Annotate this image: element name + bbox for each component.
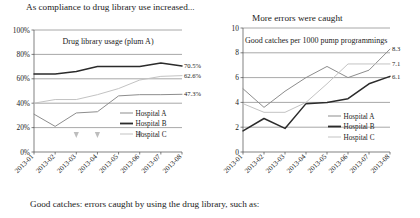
chart-subtitle: Drug library usage (plum A) bbox=[62, 37, 153, 46]
x-axis-label-2013-04: 2013-04 bbox=[285, 152, 308, 175]
x-axis-label-2013-07: 2013-07 bbox=[140, 152, 163, 175]
x-axis-label-2013-08: 2013-08 bbox=[161, 152, 184, 175]
x-axis-label-group-2013-07: 2013-07 bbox=[140, 152, 163, 175]
x-axis-label-2013-03: 2013-03 bbox=[56, 152, 79, 175]
x-axis-label-group-2013-05: 2013-05 bbox=[98, 152, 121, 175]
legend-label-hospital-a: Hospital A bbox=[344, 113, 376, 121]
y-axis-label-4: 4 bbox=[235, 98, 239, 107]
legend-label-hospital-c: Hospital C bbox=[136, 131, 167, 139]
y-axis-label-8: 8 bbox=[235, 48, 239, 57]
data-label-hospital-a: 47.3% bbox=[184, 90, 202, 97]
x-axis-label-2013-04: 2013-04 bbox=[77, 152, 100, 175]
legend-label-hospital-a: Hospital A bbox=[136, 110, 168, 118]
y-axis-label-100: 100% bbox=[13, 26, 30, 35]
x-axis-label-group-2013-01: 2013-01 bbox=[222, 152, 245, 175]
chart-subtitle: Good catches per 1000 pump programmings bbox=[245, 36, 387, 45]
down-triangle-icon-2013-03 bbox=[74, 132, 79, 138]
x-axis-label-group-2013-04: 2013-04 bbox=[77, 152, 100, 175]
x-axis-label-group-2013-03: 2013-03 bbox=[56, 152, 79, 175]
x-axis-label-2013-02: 2013-02 bbox=[34, 152, 57, 175]
left-line-chart: 0%20%40%60%80%100%2013-012013-022013-032… bbox=[0, 24, 210, 196]
x-axis-label-group-2013-05: 2013-05 bbox=[306, 152, 329, 175]
data-label-hospital-c: 7.1 bbox=[392, 60, 400, 67]
series-line-hospital-c bbox=[243, 64, 390, 112]
x-axis-label-2013-08: 2013-08 bbox=[369, 152, 392, 175]
chart-legend: Hospital AHospital BHospital C bbox=[328, 113, 375, 142]
x-axis-label-group-2013-02: 2013-02 bbox=[243, 152, 266, 175]
x-axis-label-2013-06: 2013-06 bbox=[119, 152, 142, 175]
x-axis-label-group-2013-04: 2013-04 bbox=[285, 152, 308, 175]
y-axis-label-80: 80% bbox=[16, 50, 30, 59]
series-line-hospital-b bbox=[34, 63, 182, 74]
figure-caption: Good catches: errors caught by using the… bbox=[30, 198, 410, 210]
x-axis-label-2013-03: 2013-03 bbox=[264, 152, 287, 175]
x-axis-label-2013-02: 2013-02 bbox=[243, 152, 266, 175]
y-axis-label-20: 20% bbox=[16, 123, 30, 132]
x-axis-label-group-2013-03: 2013-03 bbox=[264, 152, 287, 175]
x-axis-label-group-2013-08: 2013-08 bbox=[161, 152, 184, 175]
right-chart-panel: 02468102013-012013-022013-032013-042013-… bbox=[212, 24, 420, 196]
x-axis-label-group-2013-06: 2013-06 bbox=[119, 152, 142, 175]
x-axis-label-group-2013-02: 2013-02 bbox=[34, 152, 57, 175]
left-chart-heading: As compliance to drug library use increa… bbox=[26, 2, 206, 14]
x-axis-label-group-2013-06: 2013-06 bbox=[327, 152, 350, 175]
chart-legend: Hospital AHospital BHospital C bbox=[120, 110, 167, 139]
y-axis-label-6: 6 bbox=[235, 73, 239, 82]
x-axis-label-2013-05: 2013-05 bbox=[98, 152, 121, 175]
right-line-chart: 02468102013-012013-022013-032013-042013-… bbox=[212, 24, 420, 196]
x-axis-label-2013-05: 2013-05 bbox=[306, 152, 329, 175]
data-label-hospital-b: 70.5% bbox=[184, 62, 202, 69]
x-axis-label-group-2013-07: 2013-07 bbox=[348, 152, 371, 175]
data-label-hospital-b: 6.1 bbox=[392, 73, 400, 80]
left-chart-panel: 0%20%40%60%80%100%2013-012013-022013-032… bbox=[0, 24, 210, 196]
y-axis-label-2: 2 bbox=[235, 123, 239, 132]
x-axis-label-group-2013-08: 2013-08 bbox=[369, 152, 392, 175]
down-triangle-icon-2013-04 bbox=[95, 132, 100, 138]
legend-label-hospital-b: Hospital B bbox=[136, 120, 167, 128]
data-label-hospital-c: 62.6% bbox=[184, 72, 202, 79]
series-line-hospital-c bbox=[34, 76, 182, 104]
legend-label-hospital-b: Hospital B bbox=[344, 123, 375, 131]
data-label-hospital-a: 8.3 bbox=[392, 45, 401, 52]
y-axis-label-40: 40% bbox=[16, 99, 30, 108]
figure-root: As compliance to drug library use increa… bbox=[0, 0, 420, 218]
right-chart-heading: More errors were caught bbox=[252, 13, 420, 25]
series-line-hospital-a bbox=[243, 49, 390, 107]
x-axis-label-2013-01: 2013-01 bbox=[222, 152, 245, 175]
y-axis-label-60: 60% bbox=[16, 74, 30, 83]
x-axis-label-2013-06: 2013-06 bbox=[327, 152, 350, 175]
x-axis-label-2013-07: 2013-07 bbox=[348, 152, 371, 175]
y-axis-label-10: 10 bbox=[232, 24, 240, 33]
legend-label-hospital-c: Hospital C bbox=[344, 134, 375, 142]
